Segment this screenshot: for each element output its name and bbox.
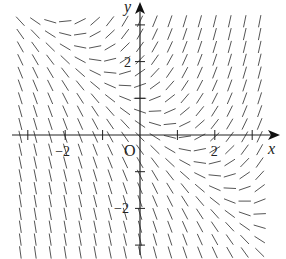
slope-segment — [180, 107, 190, 115]
slope-segment — [165, 158, 174, 167]
slope-segment — [105, 95, 115, 103]
slope-segment — [197, 93, 204, 103]
slope-segment — [19, 208, 21, 220]
slope-segment — [182, 221, 187, 232]
slope-segment — [89, 59, 101, 61]
slope-segment — [123, 170, 128, 182]
slope-segment — [33, 67, 38, 78]
slope-segment — [94, 221, 97, 233]
slope-segment — [240, 235, 249, 244]
slope-segment — [258, 105, 262, 117]
slope-segment — [33, 80, 38, 92]
slope-segment — [104, 72, 116, 73]
slope-segment — [256, 158, 263, 168]
slope-segment — [19, 118, 22, 130]
slope-segment — [106, 16, 114, 26]
slope-segment — [167, 183, 174, 194]
slope-segment — [74, 46, 86, 48]
slope-segment — [17, 42, 23, 53]
slope-segment — [168, 221, 172, 233]
slope-segment — [31, 30, 40, 39]
slope-segment — [44, 20, 56, 24]
slope-segment — [255, 185, 265, 192]
slope-segment — [63, 106, 68, 117]
slope-segment — [182, 54, 187, 65]
slope-segment — [91, 17, 100, 25]
slope-segment — [49, 144, 52, 156]
slope-segment — [49, 182, 52, 194]
x-tick-label: −2 — [55, 144, 70, 159]
slope-segment — [152, 170, 158, 181]
slope-segment — [94, 182, 97, 194]
slope-segment — [59, 33, 71, 36]
slope-segment — [198, 54, 203, 66]
slope-segment — [124, 234, 127, 246]
slope-segment — [168, 28, 173, 40]
slope-segment — [90, 70, 101, 75]
slope-segment — [64, 208, 66, 220]
slope-segment — [212, 234, 218, 245]
slope-segment — [183, 234, 187, 246]
slope-segment — [48, 80, 54, 91]
slope-segment — [93, 157, 97, 169]
slope-segment — [47, 67, 53, 78]
slope-segment — [183, 41, 188, 53]
slope-segment — [61, 56, 70, 65]
slope-segment — [60, 44, 71, 50]
slope-segment — [34, 195, 36, 207]
slope-segment — [212, 80, 217, 91]
slope-segment — [48, 105, 52, 117]
slope-segment — [153, 221, 157, 233]
slope-segment — [19, 195, 21, 207]
slope-segment — [209, 175, 221, 176]
slope-segment — [64, 182, 67, 194]
slope-segment — [119, 96, 131, 101]
slope-segment — [240, 158, 249, 167]
slope-segment — [79, 169, 82, 181]
slope-segment — [196, 196, 204, 206]
slope-segment — [243, 80, 247, 92]
slope-segment — [242, 132, 248, 143]
slope-segment — [121, 119, 130, 128]
slope-segment — [94, 246, 96, 258]
slope-segment — [182, 208, 188, 219]
slope-segment — [257, 144, 263, 155]
slope-segment — [49, 246, 51, 258]
slope-segment — [124, 246, 127, 258]
slope-segment — [79, 234, 81, 246]
slope-segment — [18, 92, 22, 104]
slope-segment — [123, 182, 127, 194]
slope-segment — [64, 221, 66, 233]
slope-segment — [124, 221, 127, 233]
slope-segment — [165, 95, 175, 103]
slope-segment — [242, 118, 247, 129]
slope-segment — [228, 41, 231, 53]
slope-segment — [152, 183, 158, 194]
slope-segment — [197, 67, 202, 78]
slope-segment — [179, 136, 191, 138]
slope-segment — [225, 159, 236, 166]
slope-segment — [62, 80, 69, 91]
slope-segment — [168, 234, 172, 246]
slope-segment — [78, 131, 83, 143]
slope-segment — [19, 157, 22, 169]
slope-segment — [92, 119, 98, 130]
slope-segment — [61, 68, 69, 78]
slope-segment — [254, 199, 266, 204]
slope-segment — [47, 55, 55, 65]
slope-segment — [255, 248, 264, 257]
slope-segment — [107, 119, 114, 129]
slope-segment — [164, 123, 176, 124]
slope-segment — [228, 15, 231, 27]
slope-segment — [49, 131, 53, 143]
slope-segment — [89, 46, 101, 48]
slope-segment — [33, 93, 37, 105]
y-tick-label: 2 — [124, 55, 131, 70]
slope-segment — [151, 158, 159, 168]
slope-segment — [166, 81, 174, 90]
slope-segment — [244, 15, 247, 27]
slope-segment — [243, 54, 246, 66]
slope-segment — [227, 247, 233, 258]
slope-segment — [48, 93, 53, 104]
slope-segment — [76, 81, 84, 91]
